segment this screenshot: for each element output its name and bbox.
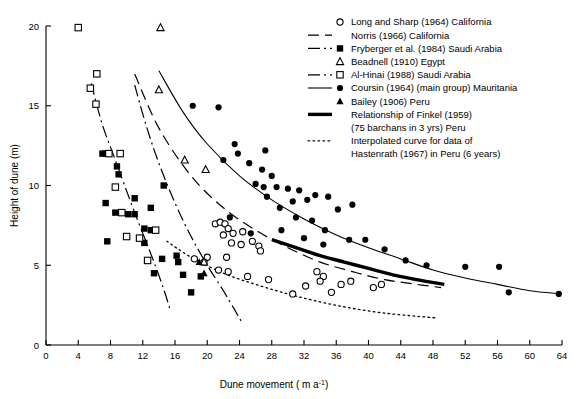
- legend-label: Fryberger et al. (1984) Saudi Arabia: [351, 43, 503, 54]
- data-point-filled-square: [148, 205, 154, 211]
- data-point-open-square: [117, 150, 123, 156]
- data-point-filled-square: [102, 200, 108, 206]
- x-tick-label: 48: [428, 350, 439, 361]
- data-point-filled-circle: [190, 103, 196, 109]
- data-point-filled-circle: [362, 237, 368, 243]
- data-point-filled-square: [141, 225, 147, 231]
- data-point-open-circle: [228, 240, 234, 246]
- y-tick-label: 5: [34, 260, 39, 271]
- data-point-filled-circle: [264, 194, 270, 200]
- data-point-filled-circle: [496, 264, 502, 270]
- data-point-filled-circle: [320, 241, 326, 247]
- legend-label: Interpolated curve for data of: [351, 135, 473, 146]
- data-point-filled-circle: [262, 147, 268, 153]
- data-point-filled-circle: [301, 235, 307, 241]
- data-point-open-circle: [215, 267, 221, 273]
- y-tick-label: 20: [28, 21, 39, 32]
- y-tick-label: 10: [28, 180, 39, 191]
- data-point-filled-circle: [304, 197, 310, 203]
- x-tick-label: 24: [234, 350, 245, 361]
- data-point-open-circle: [191, 256, 197, 262]
- data-point-filled-circle: [215, 104, 221, 110]
- data-point-open-circle: [257, 248, 263, 254]
- data-point-filled-circle: [227, 214, 233, 220]
- data-point-filled-circle: [312, 192, 318, 198]
- data-point-open-circle: [225, 269, 231, 275]
- legend-label: Al-Hinai (1988) Saudi Arabia: [351, 69, 472, 80]
- x-tick-label: 60: [524, 350, 535, 361]
- x-tick-label: 64: [557, 350, 568, 361]
- data-point-filled-circle: [322, 227, 328, 233]
- data-point-open-circle: [224, 254, 230, 260]
- data-point-open-circle: [225, 225, 231, 231]
- data-point-filled-square: [125, 211, 131, 217]
- data-point-filled-circle: [346, 237, 352, 243]
- x-tick-label: 56: [492, 350, 503, 361]
- data-point-open-circle: [317, 278, 323, 284]
- data-point-open-circle: [290, 291, 296, 297]
- data-point-open-circle: [337, 19, 343, 25]
- x-tick-label: 28: [266, 350, 277, 361]
- data-point-open-circle: [370, 284, 376, 290]
- data-point-filled-circle: [349, 202, 355, 208]
- data-point-open-square: [93, 101, 99, 107]
- data-point-open-triangle: [181, 156, 188, 163]
- data-point-filled-square: [151, 270, 157, 276]
- data-point-open-circle: [303, 283, 309, 289]
- legend-label: Norris (1966) California: [351, 30, 450, 41]
- data-point-filled-square: [337, 45, 343, 51]
- data-point-filled-circle: [402, 257, 408, 263]
- data-point-filled-circle: [337, 85, 343, 91]
- data-point-filled-square: [104, 238, 110, 244]
- data-point-open-square: [152, 227, 158, 233]
- x-tick-label: 36: [331, 350, 342, 361]
- data-point-filled-square: [131, 195, 137, 201]
- data-point-filled-circle: [382, 246, 388, 252]
- data-point-filled-circle: [273, 184, 279, 190]
- data-point-filled-circle: [325, 194, 331, 200]
- data-point-open-square: [123, 233, 129, 239]
- data-point-filled-circle: [246, 160, 252, 166]
- data-point-filled-circle: [285, 186, 291, 192]
- data-point-filled-circle: [423, 262, 429, 268]
- data-point-open-square: [75, 24, 81, 30]
- data-point-open-circle: [230, 230, 236, 236]
- x-tick-label: 20: [202, 350, 213, 361]
- data-point-open-circle: [249, 238, 255, 244]
- data-point-filled-circle: [269, 173, 275, 179]
- data-point-filled-square: [159, 256, 165, 262]
- data-point-filled-square: [173, 252, 179, 258]
- data-point-open-circle: [265, 277, 271, 283]
- data-point-filled-circle: [309, 217, 315, 223]
- data-point-filled-circle: [462, 264, 468, 270]
- data-point-open-circle: [314, 269, 320, 275]
- data-point-open-triangle: [336, 58, 343, 65]
- dune-movement-chart: 048121620242832364044485256606405101520D…: [0, 0, 582, 399]
- data-point-filled-square: [114, 163, 120, 169]
- series-curve: [167, 241, 436, 318]
- series-curve: [135, 85, 241, 321]
- legend-label-cont: (75 barchans in 3 yrs) Peru: [351, 122, 466, 133]
- data-point-open-circle: [378, 281, 384, 287]
- data-point-open-square: [337, 72, 343, 78]
- data-point-filled-circle: [335, 206, 341, 212]
- x-tick-label: 52: [460, 350, 471, 361]
- x-axis-title: Dune movement ( m a-1): [220, 379, 329, 391]
- data-point-open-circle: [240, 229, 246, 235]
- data-point-filled-square: [175, 259, 181, 265]
- data-point-filled-square: [131, 211, 137, 217]
- chart-svg: 048121620242832364044485256606405101520D…: [0, 0, 582, 399]
- data-point-filled-triangle: [200, 269, 207, 276]
- data-point-filled-circle: [253, 181, 259, 187]
- x-tick-label: 16: [170, 350, 181, 361]
- x-tick-label: 4: [76, 350, 81, 361]
- data-point-open-triangle: [202, 166, 209, 173]
- data-point-filled-square: [115, 171, 121, 177]
- data-point-filled-circle: [248, 230, 254, 236]
- data-point-open-circle: [238, 241, 244, 247]
- legend-label: Relationship of Finkel (1959): [351, 109, 472, 120]
- data-point-open-square: [87, 85, 93, 91]
- data-point-open-circle: [338, 281, 344, 287]
- series-curve: [91, 83, 170, 310]
- data-point-open-triangle: [157, 24, 164, 31]
